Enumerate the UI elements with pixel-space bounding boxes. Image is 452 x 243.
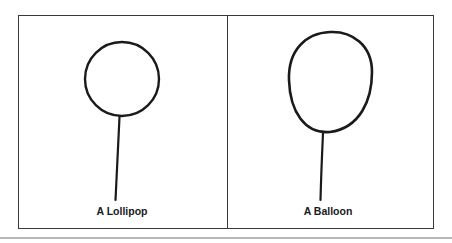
balloon-drawing [289, 32, 372, 200]
balloon-caption: A Balloon [268, 205, 388, 217]
lollipop-drawing [85, 42, 159, 200]
balloon-string-icon [321, 133, 324, 200]
lollipop-stick-icon [116, 117, 120, 200]
balloon-body-icon [289, 32, 372, 132]
bottom-separator [0, 237, 452, 239]
lollipop-candy-icon [85, 42, 159, 116]
lollipop-caption: A Lollipop [62, 205, 182, 217]
